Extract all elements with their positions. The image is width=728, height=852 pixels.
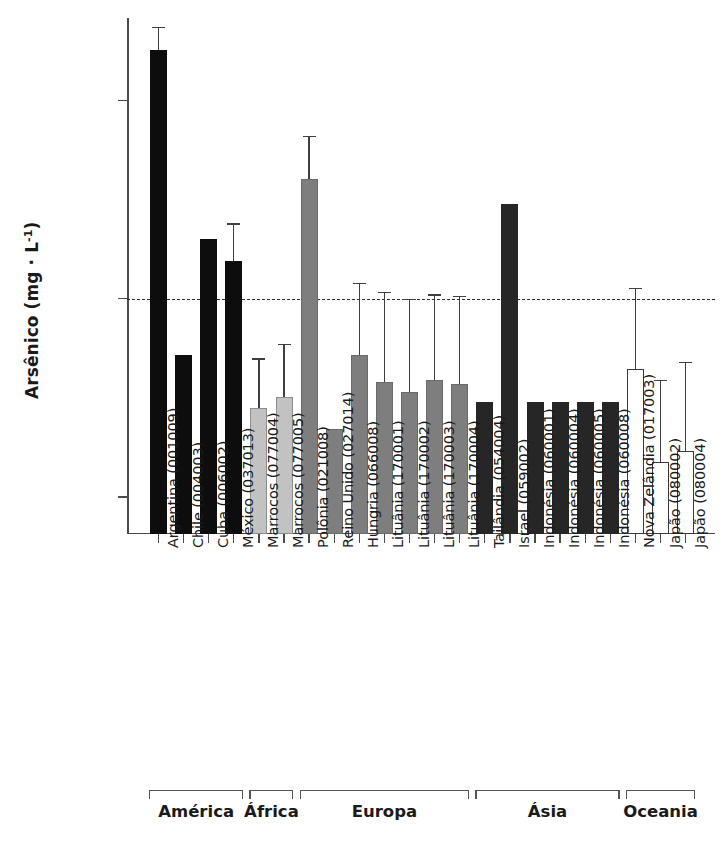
group-bracket-left-cap: [300, 790, 301, 799]
y-axis-tick: [118, 100, 128, 102]
x-axis-tick: [334, 534, 335, 543]
error-bar: [660, 380, 661, 462]
error-bar-cap: [403, 299, 416, 300]
error-bar: [359, 283, 360, 355]
error-bar-cap: [278, 344, 291, 345]
group-bracket: [149, 790, 243, 800]
group-bracket-left-cap: [475, 790, 476, 799]
x-axis-label: Hungria (066008): [365, 421, 381, 548]
error-bar: [233, 223, 234, 261]
error-bar-cap: [227, 223, 240, 224]
x-axis-label: Lituânia (170001): [390, 420, 406, 548]
x-axis-label: Indonésia (060001): [541, 408, 557, 548]
chart-root: Arsênico (mg · L-1) 0,1000,0100,001 Arge…: [0, 0, 728, 852]
error-bar-cap: [679, 362, 692, 363]
y-axis-tick: [118, 496, 128, 498]
y-axis-title-exponent: -1: [22, 229, 35, 241]
group-bracket-left-cap: [149, 790, 150, 799]
group-bracket-left-cap: [249, 790, 250, 799]
x-axis-tick: [610, 534, 611, 543]
x-axis-label: Israel (059002): [516, 439, 532, 548]
error-bar: [283, 344, 284, 397]
x-axis-tick: [635, 534, 636, 543]
group-bracket: [249, 790, 293, 800]
x-axis-label: Cuba (006002): [215, 441, 231, 548]
group-bracket-left-cap: [626, 790, 627, 799]
error-bar: [635, 288, 636, 369]
x-axis-label: Reino Unido (027014): [340, 392, 356, 548]
x-axis-tick: [283, 534, 284, 543]
x-axis-tick: [685, 534, 686, 543]
error-bar: [258, 358, 259, 408]
x-axis-label: Indonésia (060004): [566, 408, 582, 548]
y-axis-line: [127, 18, 129, 534]
group-bracket: [626, 790, 695, 800]
group-bracket-line: [149, 790, 243, 791]
x-axis-label: Japão (080004): [692, 438, 708, 548]
error-bar-cap: [353, 283, 366, 284]
x-axis-label: Lituânia (170002): [416, 420, 432, 548]
x-axis-label: Lituânia (170003): [441, 420, 457, 548]
error-bar-cap: [629, 288, 642, 289]
group-bracket-line: [249, 790, 293, 791]
error-bar-cap: [453, 296, 466, 297]
x-axis-label: Chile (004003): [190, 442, 206, 548]
x-axis-tick: [384, 534, 385, 543]
x-axis-label: México (037013): [240, 428, 256, 548]
error-bar: [384, 292, 385, 382]
y-axis-title: Arsênico (mg · L-1): [22, 160, 43, 460]
x-axis-tick: [183, 534, 184, 543]
x-axis-tick: [459, 534, 460, 543]
error-bar-cap: [252, 358, 265, 359]
y-axis-title-paren: ): [22, 222, 42, 230]
x-axis-label: Argentina (001009): [165, 408, 181, 548]
x-axis-tick: [208, 534, 209, 543]
x-axis-label: Marrocos (077004): [265, 412, 281, 548]
error-bar-cap: [428, 294, 441, 295]
x-axis-tick: [660, 534, 661, 543]
x-axis-tick: [359, 534, 360, 543]
error-bar-cap: [303, 136, 316, 137]
group-bracket-right-cap: [618, 790, 619, 799]
error-bar: [459, 296, 460, 384]
group-bracket-line: [475, 790, 620, 791]
x-axis-tick: [409, 534, 410, 543]
x-axis-tick: [585, 534, 586, 543]
group-bracket-right-cap: [242, 790, 243, 799]
x-axis-label: Japão (080002): [667, 438, 683, 548]
x-axis-tick: [308, 534, 309, 543]
x-axis-label: Indonésia (060008): [616, 408, 632, 548]
error-bar: [685, 362, 686, 451]
x-axis-tick: [233, 534, 234, 543]
error-bar: [434, 294, 435, 379]
x-axis-label: Lituânia (170004): [466, 420, 482, 548]
error-bar-cap: [378, 292, 391, 293]
y-axis-title-text: Arsênico (mg · L: [22, 242, 42, 399]
x-axis-label: Marrocos (077005): [290, 412, 306, 548]
x-axis-tick: [258, 534, 259, 543]
error-bar-cap: [152, 27, 165, 28]
x-axis-tick: [559, 534, 560, 543]
x-axis-tick: [484, 534, 485, 543]
group-bracket: [475, 790, 620, 800]
group-bracket: [300, 790, 470, 800]
error-bar: [409, 299, 410, 392]
error-bar: [308, 136, 309, 179]
group-bracket-right-cap: [694, 790, 695, 799]
group-bracket-right-cap: [292, 790, 293, 799]
x-axis-tick: [534, 534, 535, 543]
group-bracket-right-cap: [468, 790, 469, 799]
x-axis-label: Polônia (021008): [315, 426, 331, 548]
x-axis-label: Indonésia (060005): [591, 408, 607, 548]
error-bar: [158, 27, 159, 50]
group-bracket-line: [300, 790, 470, 791]
x-axis-label: Tailândia (054004): [491, 415, 507, 548]
x-axis-tick: [158, 534, 159, 543]
x-axis-tick: [434, 534, 435, 543]
x-axis-label: Nova Zelândia (017003): [641, 374, 657, 548]
group-label: Oceania: [586, 802, 728, 821]
group-bracket-line: [626, 790, 695, 791]
x-axis-tick: [509, 534, 510, 543]
